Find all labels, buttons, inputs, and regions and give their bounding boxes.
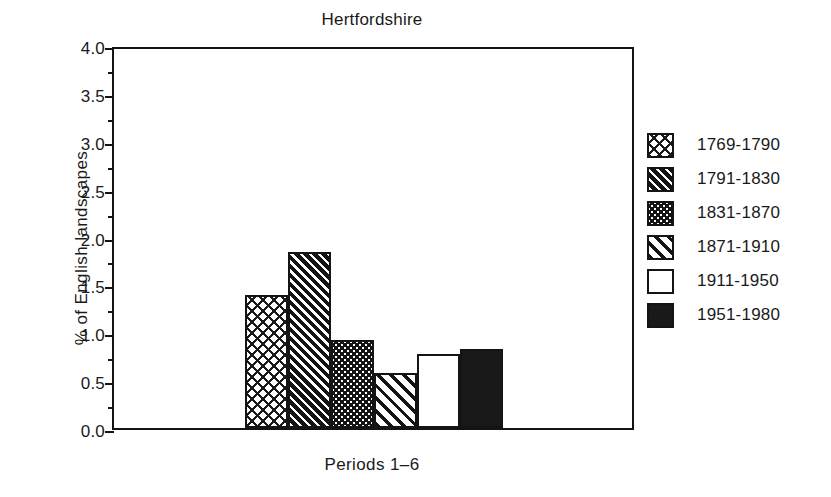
- legend-swatch-dash-scatter: [647, 133, 674, 158]
- legend: 1769-17901791-18301831-18701871-19101911…: [647, 128, 780, 332]
- legend-label: 1791-1830: [697, 169, 780, 189]
- plot-area: 4.03.53.02.52.01.51.00.50.0: [112, 47, 634, 430]
- bar-1951-1980: [460, 349, 503, 428]
- y-tick-minor: [108, 311, 114, 313]
- y-tick-minor: [108, 263, 114, 265]
- x-axis-label: Periods 1–6: [110, 455, 634, 475]
- y-tick-minor: [108, 72, 114, 74]
- y-tick-minor: [108, 359, 114, 361]
- chart-title: Hertfordshire: [110, 10, 634, 30]
- legend-label: 1911-1950: [697, 271, 779, 291]
- y-tick-major: [105, 48, 114, 50]
- legend-item-1831-1870: 1831-1870: [647, 196, 780, 230]
- legend-item-1791-1830: 1791-1830: [647, 162, 780, 196]
- y-tick-major: [105, 383, 114, 385]
- y-tick-label: 3.0: [81, 135, 105, 155]
- bar-1911-1950: [417, 354, 460, 428]
- y-tick-minor: [108, 168, 114, 170]
- legend-swatch-dark-diagonal-dash: [647, 167, 674, 192]
- y-tick-major: [105, 192, 114, 194]
- bar-1791-1830: [288, 252, 331, 428]
- y-tick-label: 2.5: [81, 183, 105, 203]
- legend-item-1769-1790: 1769-1790: [647, 128, 780, 162]
- bar-1769-1790: [245, 295, 288, 428]
- legend-label: 1951-1980: [697, 305, 780, 325]
- bar-1831-1870: [331, 340, 374, 428]
- legend-label: 1769-1790: [697, 135, 780, 155]
- legend-item-1951-1980: 1951-1980: [647, 298, 780, 332]
- legend-label: 1871-1910: [697, 237, 780, 257]
- y-tick-major: [105, 431, 114, 433]
- y-tick-major: [105, 335, 114, 337]
- y-tick-major: [105, 240, 114, 242]
- y-tick-label: 0.5: [81, 374, 105, 394]
- y-tick-major: [105, 144, 114, 146]
- y-tick-label: 4.0: [81, 39, 105, 59]
- legend-swatch-solid-black: [647, 303, 674, 328]
- legend-swatch-dark-dots: [647, 201, 674, 226]
- y-tick-label: 1.0: [81, 326, 105, 346]
- y-tick-label: 2.0: [81, 231, 105, 251]
- y-tick-label: 1.5: [81, 278, 105, 298]
- y-tick-minor: [108, 407, 114, 409]
- legend-item-1871-1910: 1871-1910: [647, 230, 780, 264]
- bar-1871-1910: [374, 373, 417, 428]
- legend-item-1911-1950: 1911-1950: [647, 264, 780, 298]
- y-tick-label: 3.5: [81, 87, 105, 107]
- y-tick-label: 0.0: [81, 422, 105, 442]
- legend-label: 1831-1870: [697, 203, 780, 223]
- bar-chart-figure: Hertfordshire % of English landscapes 4.…: [0, 0, 831, 497]
- legend-swatch-light-diagonal-stripe: [647, 235, 674, 260]
- y-tick-minor: [108, 216, 114, 218]
- y-tick-major: [105, 287, 114, 289]
- y-tick-major: [105, 96, 114, 98]
- y-tick-minor: [108, 120, 114, 122]
- legend-swatch-solid-white: [647, 269, 674, 294]
